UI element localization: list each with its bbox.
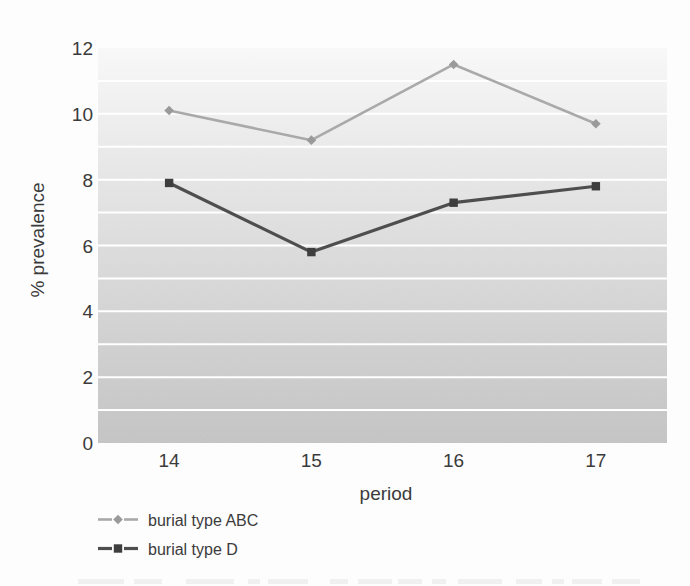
x-tick-label: 17 bbox=[585, 450, 606, 471]
x-tick-label: 16 bbox=[443, 450, 464, 471]
y-tick-label: 8 bbox=[82, 170, 93, 191]
y-axis-title: % prevalence bbox=[27, 182, 48, 297]
caption-fragment bbox=[458, 579, 502, 584]
x-tick-label: 15 bbox=[301, 450, 322, 471]
x-axis-tick-labels: 14151617 bbox=[159, 450, 607, 471]
caption-fragment bbox=[552, 579, 564, 584]
y-tick-label: 4 bbox=[82, 301, 93, 322]
caption-fragment bbox=[612, 579, 640, 584]
legend-label-burial-type-d: burial type D bbox=[148, 541, 238, 558]
caption-fragment bbox=[358, 579, 392, 584]
caption-fragment bbox=[248, 579, 260, 584]
caption-fragment bbox=[268, 579, 308, 584]
data-point-square bbox=[307, 248, 315, 256]
x-axis-title: period bbox=[360, 483, 413, 504]
legend-marker-diamond-line bbox=[98, 515, 138, 525]
legend-item-burial-type-d: burial type D bbox=[98, 541, 238, 558]
x-tick-label: 14 bbox=[159, 450, 181, 471]
legend-item-burial-type-abc: burial type ABC bbox=[98, 512, 258, 529]
caption-fragment bbox=[432, 579, 446, 584]
prevalence-line-chart: 024681012 14151617 period % prevalence b… bbox=[0, 0, 690, 586]
legend-label-burial-type-abc: burial type ABC bbox=[148, 512, 258, 529]
caption-fragment bbox=[572, 579, 602, 584]
caption-fragment bbox=[186, 579, 234, 584]
data-point-square bbox=[165, 179, 173, 187]
y-tick-label: 6 bbox=[82, 236, 93, 257]
y-tick-label: 12 bbox=[72, 38, 93, 59]
data-point-square bbox=[114, 544, 122, 552]
y-tick-label: 10 bbox=[72, 104, 93, 125]
caption-fragment bbox=[78, 579, 124, 584]
caption-fragment bbox=[398, 579, 422, 584]
caption-fragment bbox=[516, 579, 542, 584]
legend: burial type ABC burial type D bbox=[98, 512, 258, 558]
y-tick-label: 2 bbox=[82, 367, 93, 388]
line-chart-figure: 024681012 14151617 period % prevalence b… bbox=[0, 0, 690, 586]
legend-marker-square-line bbox=[98, 544, 138, 552]
cropped-caption-artifact bbox=[78, 579, 640, 584]
data-point-square bbox=[449, 199, 457, 207]
data-point-square bbox=[592, 182, 600, 190]
caption-fragment bbox=[330, 579, 348, 584]
caption-fragment bbox=[134, 579, 162, 584]
data-point-diamond bbox=[113, 515, 123, 525]
y-tick-label: 0 bbox=[82, 433, 93, 454]
y-axis-tick-labels: 024681012 bbox=[72, 38, 94, 454]
